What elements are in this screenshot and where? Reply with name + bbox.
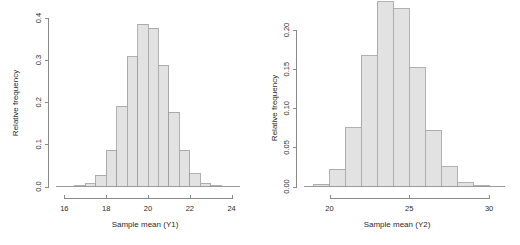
histogram-bar bbox=[345, 128, 361, 187]
histogram-y1-bars bbox=[75, 24, 221, 186]
y-tick-label: 0.1 bbox=[34, 139, 43, 149]
histogram-bar bbox=[393, 9, 409, 187]
x-tick-label: 24 bbox=[227, 204, 235, 213]
histogram-bar bbox=[457, 183, 473, 187]
histogram-bar bbox=[117, 106, 127, 186]
histogram-bar bbox=[127, 57, 137, 187]
y-tick-label: 0.20 bbox=[282, 23, 291, 38]
x-tick-label: 22 bbox=[186, 204, 194, 213]
histogram-y2-bars bbox=[314, 2, 489, 187]
x-tick-label: 16 bbox=[60, 204, 68, 213]
y-tick-label: 0.05 bbox=[282, 140, 291, 155]
x-tick-label: 25 bbox=[405, 204, 413, 213]
x-tick-label: 20 bbox=[325, 204, 333, 213]
y-tick-label: 0.00 bbox=[282, 179, 291, 194]
histogram-y2-ylabel: Relative frequency bbox=[270, 75, 279, 141]
x-tick-label: 18 bbox=[102, 204, 110, 213]
histogram-y1-xaxis: 1618202224 bbox=[60, 195, 236, 213]
histogram-y2-xlabel: Sample mean (Y2) bbox=[364, 220, 431, 229]
histogram-y1-ylabel: Relative frequency bbox=[11, 70, 20, 136]
histogram-bar bbox=[148, 28, 158, 186]
histogram-y1-xlabel: Sample mean (Y1) bbox=[112, 220, 179, 229]
histogram-y2-yaxis: 0.000.050.100.150.20 bbox=[282, 23, 297, 194]
histogram-bar bbox=[169, 112, 179, 186]
histogram-bar bbox=[330, 169, 346, 186]
histogram-y1-svg: 0.00.10.20.30.4 1618202224 Sample mean (… bbox=[0, 0, 260, 245]
panel-histogram-y1: 0.00.10.20.30.4 1618202224 Sample mean (… bbox=[0, 0, 260, 245]
histogram-bar bbox=[200, 183, 210, 186]
histogram-bar bbox=[179, 150, 189, 186]
histogram-bar bbox=[138, 24, 148, 186]
histogram-bar bbox=[106, 150, 116, 186]
x-tick-label: 20 bbox=[144, 204, 152, 213]
histogram-bar bbox=[158, 65, 168, 186]
y-tick-label: 0.10 bbox=[282, 101, 291, 116]
histogram-bar bbox=[425, 130, 441, 186]
x-tick-label: 30 bbox=[485, 204, 493, 213]
histogram-bar bbox=[377, 2, 393, 187]
histogram-bar bbox=[361, 56, 377, 187]
histogram-bar bbox=[190, 174, 200, 187]
y-tick-label: 0.2 bbox=[34, 97, 43, 107]
y-tick-label: 0.0 bbox=[34, 181, 43, 191]
histogram-bar bbox=[409, 68, 425, 187]
y-tick-label: 0.4 bbox=[34, 13, 43, 23]
histogram-y2-svg: 0.000.050.100.150.20 202530 Sample mean … bbox=[260, 0, 520, 245]
histogram-y2-xaxis: 202530 bbox=[325, 195, 493, 213]
panel-histogram-y2: 0.000.050.100.150.20 202530 Sample mean … bbox=[260, 0, 520, 245]
histogram-y1-yaxis: 0.00.10.20.30.4 bbox=[34, 13, 49, 192]
figure-two-histograms: 0.00.10.20.30.4 1618202224 Sample mean (… bbox=[0, 0, 520, 245]
y-tick-label: 0.15 bbox=[282, 62, 291, 77]
histogram-bar bbox=[96, 175, 106, 186]
histogram-bar bbox=[441, 167, 457, 187]
y-tick-label: 0.3 bbox=[34, 55, 43, 65]
